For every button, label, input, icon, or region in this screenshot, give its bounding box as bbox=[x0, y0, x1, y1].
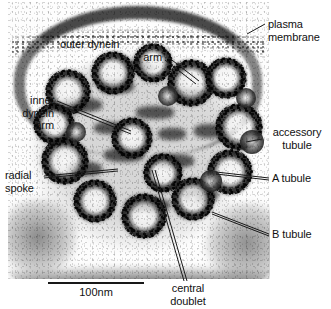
doublet-lobe bbox=[158, 86, 178, 106]
b-tubule-lobe bbox=[200, 170, 222, 192]
scale-bar-line bbox=[48, 282, 144, 284]
label-plasma-membrane: plasma membrane bbox=[268, 18, 330, 43]
scale-bar-label: 100nm bbox=[48, 286, 144, 299]
central-doublet bbox=[112, 118, 152, 158]
microtubule-doublet bbox=[74, 180, 116, 222]
a-tubule-lobe bbox=[236, 88, 256, 108]
bridge-structure bbox=[158, 128, 186, 140]
doublet-lobe bbox=[66, 122, 86, 142]
bridge-structure bbox=[136, 106, 174, 119]
label-inner-dynein-arm: inner dynein arm bbox=[0, 94, 54, 132]
label-radial-spoke: radial spoke bbox=[5, 169, 65, 194]
label-accessory-tubule: accessory tubule bbox=[263, 126, 331, 151]
label-outer-dynein-arm-line1: outer dynein bbox=[60, 38, 162, 51]
micrograph-figure: plasma membrane outer dynein arm inner d… bbox=[0, 0, 331, 309]
label-a-tubule: A tubule bbox=[272, 172, 330, 185]
label-central-doublet: central doublet bbox=[152, 282, 224, 307]
central-doublet bbox=[144, 154, 182, 192]
label-outer-dynein-arm-line2: arm bbox=[60, 51, 162, 64]
label-b-tubule: B tubule bbox=[272, 228, 330, 241]
accessory-tubule-lobe bbox=[240, 130, 264, 154]
